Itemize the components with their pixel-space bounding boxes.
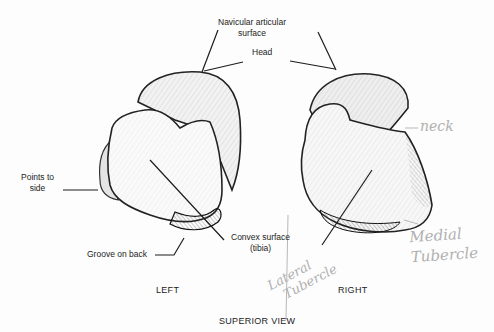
label-groove-on-back: Groove on back [87, 249, 147, 260]
label-points-to-side: Points to side [21, 172, 54, 194]
caption-left: LEFT [156, 285, 179, 295]
bone-illustrations [0, 0, 494, 332]
label-convex-line2: (tibia) [231, 243, 290, 254]
label-points-to-side-line1: Points to [21, 172, 54, 183]
label-navicular-line1: Navicular articular [218, 17, 286, 28]
label-navicular-articular-surface: Navicular articular surface [218, 17, 286, 39]
label-navicular-line2: surface [218, 28, 286, 39]
talus-diagram: Navicular articular surface Head Points … [0, 0, 494, 332]
label-points-to-side-line2: side [21, 183, 54, 194]
caption-right: RIGHT [338, 285, 368, 295]
right-talus [302, 74, 432, 233]
handwritten-medial-tubercle: Medial Tubercle [409, 224, 479, 267]
label-convex-line1: Convex surface [231, 232, 290, 243]
left-talus [100, 72, 241, 230]
handwritten-medial-line1: Medial [409, 224, 477, 247]
label-convex-surface: Convex surface (tibia) [231, 232, 290, 254]
caption-superior-view: SUPERIOR VIEW [219, 316, 295, 326]
handwritten-neck: neck [420, 118, 454, 134]
label-head: Head [252, 47, 272, 58]
